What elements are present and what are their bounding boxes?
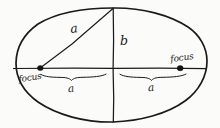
- label-semi-major-left-a: a: [67, 82, 74, 95]
- label-focus-right: focus: [169, 51, 195, 64]
- label-focus-left: focus: [17, 71, 43, 85]
- label-focal-radius-a: a: [69, 20, 78, 36]
- label-semi-major-right-a: a: [147, 81, 154, 94]
- brace-right-path: [120, 74, 186, 80]
- ellipse-diagram: a b focus focus a a: [0, 0, 220, 128]
- focus-right-dot: [177, 66, 183, 71]
- label-semi-minor-b: b: [120, 33, 128, 48]
- diagram-canvas: a b focus focus a a: [0, 0, 220, 128]
- minor-axis-line: [113, 8, 114, 122]
- brace-left-path: [41, 74, 106, 80]
